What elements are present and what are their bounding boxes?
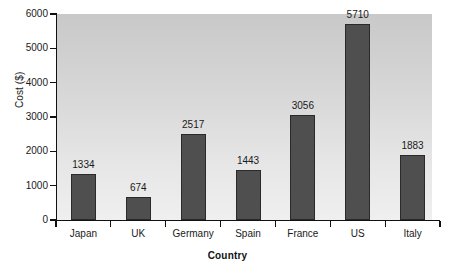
y-axis-tick-label: 2000 [12, 146, 48, 156]
x-axis-tick [110, 221, 111, 227]
bar [71, 174, 96, 220]
y-axis-tick [50, 185, 56, 186]
bar-chart: Cost ($) 0100020003000400050006000 13346… [0, 0, 455, 279]
x-axis-tick [220, 221, 221, 227]
bar [126, 197, 151, 220]
x-axis-tick [165, 221, 166, 227]
bar-value-label: 3056 [273, 101, 333, 111]
y-axis-title: Cost ($) [14, 28, 25, 108]
y-axis-tick-label: 0 [12, 215, 48, 225]
x-axis-tick [385, 221, 386, 227]
x-axis-tick [330, 221, 331, 227]
x-axis-category-label: Italy [378, 229, 448, 239]
bar-value-label: 2517 [163, 120, 223, 130]
bar-value-label: 5710 [328, 10, 388, 20]
bar-value-label: 1883 [383, 141, 443, 151]
y-axis-line [56, 13, 57, 221]
y-axis-tick-label: 5000 [12, 43, 48, 53]
bar-value-label: 674 [108, 183, 168, 193]
bar-value-label: 1334 [53, 160, 113, 170]
y-axis-tick [50, 82, 56, 83]
bar [290, 115, 315, 220]
y-axis-tick [50, 116, 56, 117]
bar [400, 155, 425, 220]
y-axis-tick-label: 4000 [12, 78, 48, 88]
y-axis-tick-label: 1000 [12, 181, 48, 191]
y-axis-tick [50, 13, 56, 14]
x-axis-tick [55, 221, 56, 227]
x-axis-tick [439, 221, 440, 227]
bar [181, 134, 206, 220]
y-axis-tick-label: 6000 [12, 9, 48, 19]
bar [345, 24, 370, 220]
x-axis-line [56, 220, 440, 221]
y-axis-tick [50, 151, 56, 152]
y-axis-tick [50, 48, 56, 49]
x-axis-title: Country [0, 250, 455, 261]
y-axis-tick-label: 3000 [12, 112, 48, 122]
bar [236, 170, 261, 220]
bar-value-label: 1443 [218, 156, 278, 166]
x-axis-tick [275, 221, 276, 227]
